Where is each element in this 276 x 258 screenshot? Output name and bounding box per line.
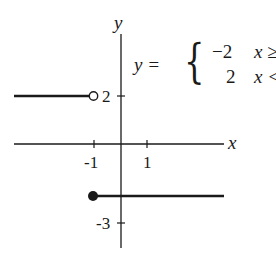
tick-label-y-2: 2 — [102, 88, 111, 105]
left-brace: { — [184, 38, 204, 84]
case2-value: 2 — [226, 66, 236, 88]
y-axis-label: y — [114, 13, 122, 32]
case1-condition: x ≥ −1 — [254, 41, 276, 63]
tick-label-x-neg1: -1 — [84, 154, 98, 171]
open-circle-endpoint — [89, 92, 97, 100]
graph-canvas — [0, 0, 276, 258]
x-axis-label: x — [228, 133, 236, 152]
tick-label-y-neg3: -3 — [96, 215, 110, 232]
filled-circle-endpoint — [88, 191, 98, 201]
equation-lhs: y = — [134, 54, 160, 76]
case2-condition: x < 1 — [254, 66, 276, 88]
tick-label-x-1: 1 — [143, 154, 152, 171]
case1-value: −2 — [212, 41, 232, 63]
